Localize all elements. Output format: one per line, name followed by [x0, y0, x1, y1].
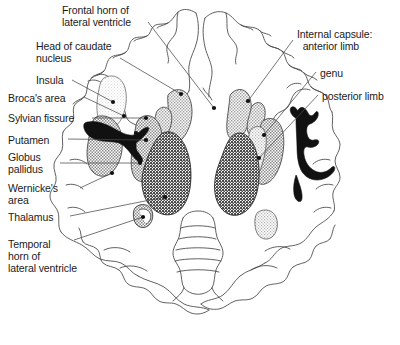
dot-brocas-area	[122, 114, 126, 118]
label-head-of-caudate-nucleus: Head of caudate nucleus	[36, 40, 112, 64]
label-genu: genu	[320, 67, 343, 79]
structure-thalamus-right	[215, 133, 260, 215]
label-internal-capsule-anterior-limb: Internal capsule: anterior limb	[297, 28, 372, 52]
label-putamen: Putamen	[8, 134, 49, 146]
dot-insula	[111, 100, 115, 104]
structure-caudate-head-right	[227, 90, 252, 141]
label-sylvian-fissure: Sylvian fissure	[8, 112, 74, 124]
label-brocas-area: Broca's area	[8, 92, 65, 104]
dot-temporal-horn	[141, 215, 145, 219]
label-temporal-horn: Temporal horn of lateral ventricle	[8, 238, 77, 275]
dot-anterior-limb	[246, 99, 250, 103]
dot-posterior-limb	[257, 156, 261, 160]
label-posterior-limb: posterior limb	[322, 90, 384, 102]
dot-thalamus	[163, 195, 167, 199]
dot-frontal-horn	[212, 106, 216, 110]
dot-sylvian-fissure	[144, 116, 148, 120]
dot-wernickes-area	[110, 171, 114, 175]
dot-extra-left	[134, 131, 138, 135]
label-thalamus: Thalamus	[8, 211, 53, 223]
dot-head-caudate	[179, 92, 183, 96]
label-wernickes-area: Wernicke's area	[8, 182, 58, 206]
figure-canvas: Frontal horn of lateral ventricle Head o…	[0, 0, 400, 345]
label-frontal-horn: Frontal horn of lateral ventricle	[62, 4, 131, 28]
structure-internal-capsule	[290, 107, 335, 202]
label-insula: Insula	[36, 74, 63, 86]
dot-putamen	[144, 138, 148, 142]
structure-pulvinar-right	[255, 210, 278, 239]
label-globus-pallidus: Globus pallidus	[8, 151, 43, 175]
dot-genu	[262, 133, 266, 137]
dot-globus-pallidus	[138, 161, 142, 165]
